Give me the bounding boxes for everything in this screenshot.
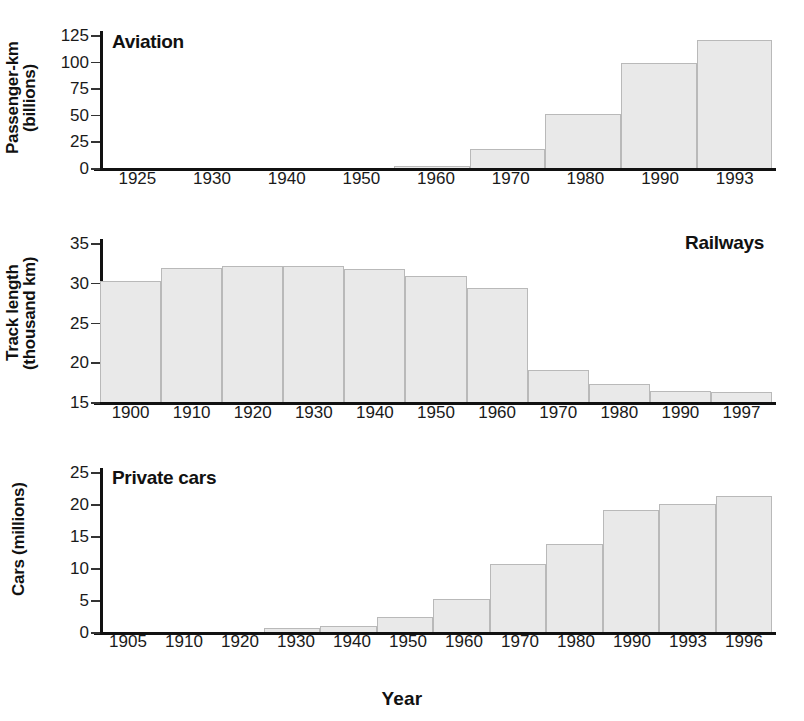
y-tick-label-private-cars-10: 10 — [70, 560, 89, 577]
bar-railways-1950 — [405, 276, 466, 402]
x-tick-label-private-cars-1905: 1905 — [100, 633, 156, 650]
x-tick-labels-railways: 1900191019201930194019501960197019801990… — [100, 404, 772, 421]
bar-aviation-1990 — [621, 63, 697, 168]
y-axis-title-railways: Track length (thousand km) — [4, 218, 39, 408]
y-tick-label-private-cars-25: 25 — [70, 464, 89, 481]
y-tick-private-cars-10 — [91, 568, 100, 570]
bar-aviation-1980 — [545, 114, 621, 168]
y-tick-label-railways-35: 35 — [70, 235, 89, 252]
x-tick-label-railways-1920: 1920 — [222, 404, 283, 421]
y-tick-private-cars-25 — [91, 472, 100, 474]
x-tick-label-railways-1940: 1940 — [344, 404, 405, 421]
chart-title-private-cars: Private cars — [112, 467, 216, 489]
bar-series-aviation — [100, 35, 772, 168]
x-axis-title: Year — [0, 688, 804, 710]
bar-railways-1940 — [344, 269, 405, 402]
bar-private-cars-1950 — [377, 617, 434, 632]
y-tick-railways-35 — [91, 243, 100, 245]
x-tick-label-private-cars-1996: 1996 — [716, 633, 772, 650]
x-tick-label-private-cars-1970: 1970 — [492, 633, 548, 650]
y-axis-title-private-cars: Cars (millions) — [10, 454, 27, 624]
bar-railways-1920 — [222, 266, 283, 402]
x-tick-label-railways-1900: 1900 — [100, 404, 161, 421]
x-tick-label-aviation-1990: 1990 — [623, 170, 698, 187]
x-tick-label-private-cars-1980: 1980 — [548, 633, 604, 650]
bar-railways-1970 — [528, 370, 589, 402]
y-tick-label-aviation-75: 75 — [70, 80, 89, 97]
x-tick-label-aviation-1950: 1950 — [324, 170, 399, 187]
x-tick-label-railways-1950: 1950 — [405, 404, 466, 421]
triple-bar-chart-figure: Passenger-km (billions) Aviation 0255075… — [0, 0, 804, 721]
bar-railways-1960 — [467, 288, 528, 402]
x-tick-label-private-cars-1930: 1930 — [268, 633, 324, 650]
chart-title-railways: Railways — [685, 232, 764, 254]
x-tick-label-railways-1980: 1980 — [589, 404, 650, 421]
bar-railways-1990 — [650, 391, 711, 402]
x-tick-label-aviation-1930: 1930 — [175, 170, 250, 187]
y-tick-label-aviation-0: 0 — [80, 160, 89, 177]
x-tick-label-railways-1970: 1970 — [528, 404, 589, 421]
x-tick-label-private-cars-1920: 1920 — [212, 633, 268, 650]
y-tick-railways-25 — [91, 323, 100, 325]
y-tick-label-aviation-125: 125 — [61, 27, 89, 44]
x-tick-label-aviation-1940: 1940 — [249, 170, 324, 187]
x-tick-label-railways-1930: 1930 — [283, 404, 344, 421]
plot-area-aviation: 0255075100125 — [100, 35, 772, 168]
y-tick-railways-20 — [91, 362, 100, 364]
x-tick-label-aviation-1970: 1970 — [473, 170, 548, 187]
x-tick-label-railways-1990: 1990 — [650, 404, 711, 421]
x-tick-label-private-cars-1910: 1910 — [156, 633, 212, 650]
x-tick-label-private-cars-1993: 1993 — [660, 633, 716, 650]
y-tick-private-cars-0 — [91, 632, 100, 634]
plot-area-railways: 1520253035 — [100, 243, 772, 402]
chart-panel-aviation: Passenger-km (billions) Aviation 0255075… — [0, 0, 804, 200]
y-tick-aviation-75 — [91, 88, 100, 90]
y-tick-railways-30 — [91, 283, 100, 285]
bar-aviation-1993 — [697, 40, 773, 168]
x-tick-label-railways-1960: 1960 — [467, 404, 528, 421]
x-tick-label-aviation-1980: 1980 — [548, 170, 623, 187]
bar-aviation-1970 — [470, 149, 546, 168]
x-tick-labels-aviation: 192519301940195019601970198019901993 — [100, 170, 772, 187]
bar-private-cars-1980 — [546, 544, 603, 632]
y-tick-aviation-0 — [91, 168, 100, 170]
bar-private-cars-1970 — [490, 564, 547, 632]
y-tick-label-aviation-25: 25 — [70, 133, 89, 150]
x-tick-label-private-cars-1960: 1960 — [436, 633, 492, 650]
bar-railways-1997 — [711, 392, 772, 402]
y-tick-label-private-cars-20: 20 — [70, 496, 89, 513]
bar-aviation-1950 — [321, 167, 395, 168]
y-tick-railways-15 — [91, 402, 100, 404]
bar-aviation-1960 — [394, 166, 470, 168]
y-tick-label-private-cars-15: 15 — [70, 528, 89, 545]
x-tick-labels-private-cars: 1905191019201930194019501960197019801990… — [100, 633, 772, 650]
x-tick-label-aviation-1960: 1960 — [399, 170, 474, 187]
chart-panel-railways: Track length (thousand km) 1520253035 19… — [0, 200, 804, 430]
y-tick-private-cars-5 — [91, 600, 100, 602]
y-tick-label-railways-30: 30 — [70, 274, 89, 291]
bar-railways-1980 — [589, 384, 650, 402]
plot-area-private-cars: 0510152025 — [100, 472, 772, 632]
bar-series-railways — [100, 243, 772, 402]
y-tick-aviation-50 — [91, 115, 100, 117]
bar-railways-1910 — [161, 268, 222, 402]
y-tick-private-cars-15 — [91, 536, 100, 538]
y-tick-label-railways-20: 20 — [70, 354, 89, 371]
bar-private-cars-1960 — [433, 599, 490, 632]
x-tick-label-railways-1997: 1997 — [711, 404, 772, 421]
y-tick-label-private-cars-5: 5 — [80, 592, 89, 609]
bar-private-cars-1990 — [603, 510, 660, 632]
bar-railways-1930 — [283, 266, 344, 402]
y-tick-private-cars-20 — [91, 504, 100, 506]
y-tick-label-private-cars-0: 0 — [80, 624, 89, 641]
bar-series-private-cars — [100, 472, 772, 632]
y-tick-label-aviation-50: 50 — [70, 106, 89, 123]
y-axis-title-aviation: Passenger-km (billions) — [4, 18, 39, 178]
y-tick-aviation-25 — [91, 141, 100, 143]
y-tick-aviation-125 — [91, 35, 100, 37]
x-tick-label-private-cars-1940: 1940 — [324, 633, 380, 650]
x-tick-label-private-cars-1990: 1990 — [604, 633, 660, 650]
bar-private-cars-1993 — [659, 504, 716, 632]
y-tick-label-railways-25: 25 — [70, 314, 89, 331]
y-tick-aviation-100 — [91, 62, 100, 64]
